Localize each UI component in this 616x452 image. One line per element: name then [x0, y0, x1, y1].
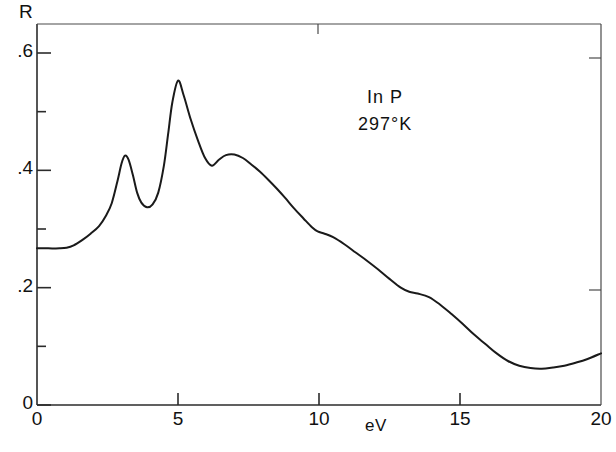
plot-canvas	[0, 0, 616, 452]
x-tick-label: 15	[446, 408, 474, 430]
annotation-material: In P	[358, 84, 412, 111]
x-tick-label: 0	[23, 408, 51, 430]
axes-frame	[37, 24, 601, 405]
plot-annotation: In P 297°K	[358, 84, 412, 138]
y-tick-label: .4	[17, 157, 33, 179]
x-tick-label: 10	[305, 408, 333, 430]
y-tick-label: .6	[17, 40, 33, 62]
reflectance-figure: R eV In P 297°K .6.4.2005101520	[0, 0, 616, 452]
y-tick-label: .2	[17, 275, 33, 297]
x-axis-label: eV	[365, 416, 387, 436]
x-tick-label: 20	[587, 408, 615, 430]
annotation-temperature: 297°K	[358, 111, 412, 138]
reflectance-curve	[37, 80, 601, 368]
y-axis-label: R	[19, 1, 33, 23]
x-tick-label: 5	[164, 408, 192, 430]
